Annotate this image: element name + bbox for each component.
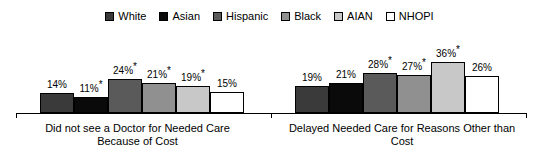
bar-aian[interactable]	[176, 86, 210, 113]
plot-area: 14%11%*24%*21%*19%*15% 19%21%28%*27%*36%…	[16, 34, 527, 114]
bar-value-label: 28%*	[368, 60, 392, 70]
bar-value-label: 24%*	[113, 66, 137, 76]
bar-slot-white: 19%	[295, 34, 329, 113]
legend-entry-aian[interactable]: AIAN	[334, 11, 373, 22]
significance-marker: *	[167, 65, 171, 76]
significance-marker: *	[201, 68, 205, 79]
legend-swatch-black	[281, 12, 290, 21]
bar-nhopi[interactable]	[465, 76, 499, 113]
bar-slot-hispanic: 28%*	[363, 34, 397, 113]
bar-value-text: 19%	[302, 72, 322, 83]
axis-tick-right	[526, 113, 527, 118]
significance-marker: *	[422, 57, 426, 68]
bar-slot-black: 21%*	[142, 34, 176, 113]
legend-label-black: Black	[294, 11, 321, 22]
bar-nhopi[interactable]	[210, 92, 244, 113]
legend-entry-asian[interactable]: Asian	[159, 11, 200, 22]
legend-entry-white[interactable]: White	[105, 11, 146, 22]
category-label-0: Did not see a Doctor for Needed Care Bec…	[20, 122, 255, 148]
bar-value-text: 21%	[336, 69, 356, 80]
legend-label-hispanic: Hispanic	[226, 11, 268, 22]
axis-tick-left	[16, 113, 17, 118]
chart-legend: WhiteAsianHispanicBlackAIANNHOPI	[0, 6, 539, 26]
legend-label-asian: Asian	[172, 11, 200, 22]
significance-marker: *	[388, 55, 392, 66]
bar-value-label: 36%*	[436, 49, 460, 59]
significance-marker: *	[456, 44, 460, 55]
bar-group-did-not-see-doctor: 14%11%*24%*21%*19%*15%	[40, 34, 244, 113]
bar-value-label: 19%*	[181, 73, 205, 83]
bar-white[interactable]	[40, 93, 74, 113]
bar-value-label: 15%	[217, 79, 237, 89]
legend-label-nhopi: NHOPI	[399, 11, 434, 22]
category-label-1-line2: Cost	[272, 135, 532, 148]
bar-asian[interactable]	[74, 97, 108, 113]
legend-swatch-white	[105, 12, 114, 21]
legend-label-aian: AIAN	[347, 11, 373, 22]
bar-value-label: 21%*	[147, 70, 171, 80]
legend-swatch-asian	[159, 12, 168, 21]
bar-value-text: 36%	[436, 48, 456, 59]
legend-swatch-aian	[334, 12, 343, 21]
bar-slot-aian: 19%*	[176, 34, 210, 113]
bar-value-text: 24%	[113, 65, 133, 76]
bar-slot-nhopi: 15%	[210, 34, 244, 113]
legend-swatch-nhopi	[386, 12, 395, 21]
legend-label-white: White	[118, 11, 146, 22]
bar-value-text: 11%	[79, 83, 98, 94]
bar-aian[interactable]	[431, 62, 465, 113]
bar-value-text: 21%	[147, 69, 167, 80]
bar-black[interactable]	[397, 75, 431, 113]
bar-slot-black: 27%*	[397, 34, 431, 113]
bar-value-text: 19%	[181, 72, 201, 83]
legend-entry-black[interactable]: Black	[281, 11, 321, 22]
bar-asian[interactable]	[329, 83, 363, 113]
axis-tick-middle	[271, 113, 272, 118]
bar-white[interactable]	[295, 86, 329, 113]
legend-entry-nhopi[interactable]: NHOPI	[386, 11, 434, 22]
bar-value-text: 15%	[217, 78, 237, 89]
bar-slot-white: 14%	[40, 34, 74, 113]
significance-marker: *	[133, 61, 137, 72]
bar-value-text: 28%	[368, 59, 388, 70]
bar-value-label: 27%*	[402, 62, 426, 72]
bar-value-label: 19%	[302, 73, 322, 83]
bar-value-text: 26%	[472, 62, 492, 73]
bar-group-delayed-needed-care: 19%21%28%*27%*36%*26%	[295, 34, 499, 113]
legend-entry-hispanic[interactable]: Hispanic	[213, 11, 268, 22]
category-label-0-line2: Because of Cost	[20, 135, 255, 148]
bar-black[interactable]	[142, 83, 176, 113]
bar-value-text: 14%	[47, 79, 67, 90]
bar-slot-asian: 11%*	[74, 34, 108, 113]
bar-hispanic[interactable]	[363, 73, 397, 113]
legend-swatch-hispanic	[213, 12, 222, 21]
bar-value-label: 14%	[47, 80, 67, 90]
bar-value-text: 27%	[402, 61, 422, 72]
bar-hispanic[interactable]	[108, 79, 142, 113]
category-label-1-line1: Delayed Needed Care for Reasons Other th…	[272, 122, 532, 135]
bar-slot-hispanic: 24%*	[108, 34, 142, 113]
category-label-0-line1: Did not see a Doctor for Needed Care	[20, 122, 255, 135]
significance-marker: *	[99, 79, 103, 90]
category-label-1: Delayed Needed Care for Reasons Other th…	[272, 122, 532, 148]
bar-slot-asian: 21%	[329, 34, 363, 113]
bar-value-label: 21%	[336, 70, 356, 80]
grouped-bar-chart: WhiteAsianHispanicBlackAIANNHOPI 14%11%*…	[0, 0, 539, 161]
bar-slot-nhopi: 26%	[465, 34, 499, 113]
bar-value-label: 11%*	[79, 84, 102, 94]
bar-value-label: 26%	[472, 63, 492, 73]
bar-slot-aian: 36%*	[431, 34, 465, 113]
